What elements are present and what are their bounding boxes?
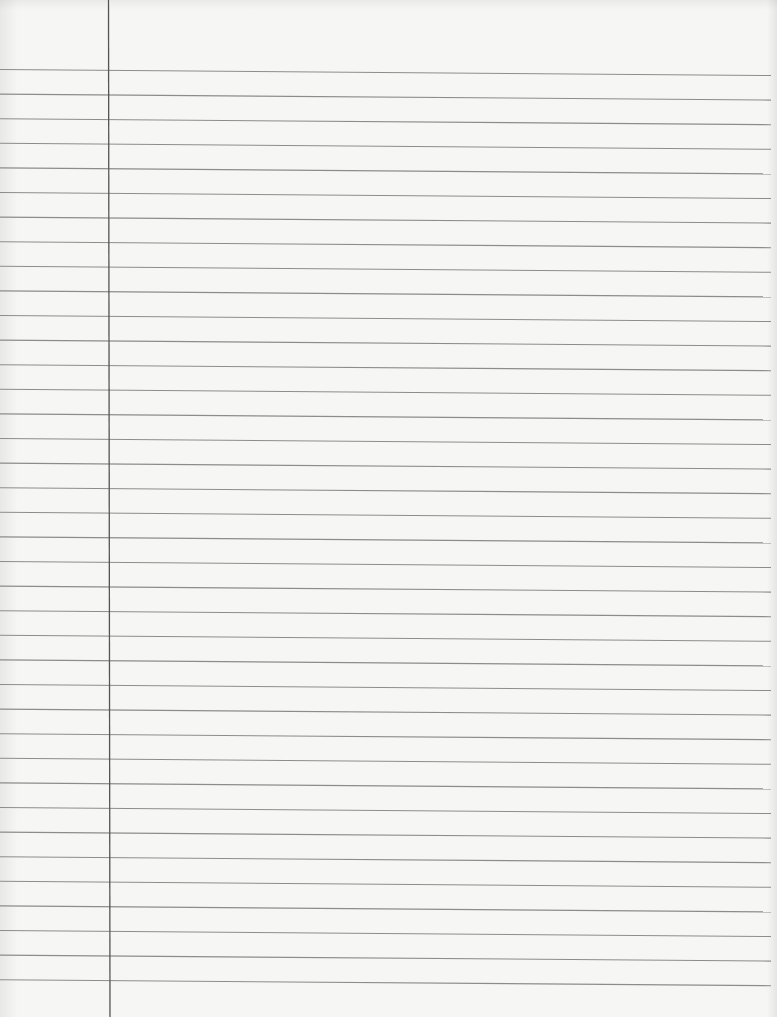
ruled-line (0, 463, 771, 469)
ruled-line (0, 488, 771, 494)
ruled-lines (0, 0, 777, 1017)
ruled-line (0, 365, 771, 371)
ruled-line (0, 439, 771, 445)
ruled-line (0, 414, 771, 420)
ruled-line (0, 217, 771, 223)
ruled-line (0, 980, 771, 986)
ruled-line (0, 857, 771, 863)
ruled-line (0, 168, 771, 174)
ruled-line (0, 758, 771, 764)
ruled-line (0, 955, 771, 961)
ruled-line (0, 340, 771, 346)
ruled-line (0, 685, 771, 691)
ruled-line (0, 660, 771, 666)
ruled-line (0, 709, 771, 715)
ruled-line (0, 94, 771, 100)
ruled-line (0, 808, 771, 814)
ruled-line (0, 316, 771, 322)
ruled-line (0, 906, 771, 912)
ruled-line (0, 734, 771, 740)
ruled-line (0, 783, 771, 789)
ruled-line (0, 242, 771, 248)
ruled-line (0, 931, 771, 937)
ruled-line (0, 881, 771, 887)
ruled-line (0, 389, 771, 395)
ruled-line (0, 119, 771, 125)
ruled-line (0, 143, 771, 149)
ruled-line (0, 537, 771, 543)
ruled-line (0, 512, 771, 518)
ruled-line (0, 832, 771, 838)
ruled-line (0, 266, 771, 272)
ruled-line (0, 70, 771, 76)
ruled-line (0, 193, 771, 199)
ruled-line (0, 611, 771, 617)
lined-paper-sheet (0, 0, 777, 1017)
ruled-line (0, 562, 771, 568)
horizontal-rules (0, 70, 771, 986)
ruled-line (0, 586, 771, 592)
ruled-line (0, 291, 771, 297)
ruled-line (0, 635, 771, 641)
margin-line (109, 0, 111, 1017)
